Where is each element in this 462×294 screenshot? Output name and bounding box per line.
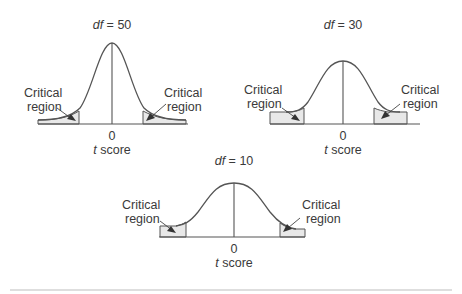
panel-title: df = 50 — [93, 18, 132, 32]
panel-df-10: df = 10 Criticalregion Criticalregion 0 … — [122, 154, 341, 270]
left-region-label: Criticalregion — [244, 83, 282, 111]
panel-title: df = 10 — [215, 154, 254, 168]
panel-df-50: df = 50 Criticalregion Criticalregion 0 … — [24, 18, 202, 157]
t-distribution-figure: df = 50 Criticalregion Criticalregion 0 … — [0, 0, 462, 294]
right-region-label: Criticalregion — [302, 198, 341, 226]
axis-label: t score — [93, 143, 131, 157]
right-arrow — [151, 104, 166, 117]
right-region-label: Criticalregion — [401, 83, 439, 111]
center-tick-label: 0 — [231, 242, 238, 256]
distribution-curve — [176, 183, 296, 229]
left-region-label: Criticalregion — [122, 198, 160, 226]
axis-label: t score — [324, 143, 362, 157]
right-region-label: Criticalregion — [164, 86, 202, 114]
panel-title: df = 30 — [324, 18, 363, 32]
panel-df-30: df = 30 Criticalregion Criticalregion 0 … — [244, 18, 439, 157]
axis-label: t score — [215, 256, 253, 270]
right-arrow — [288, 218, 300, 228]
center-tick-label: 0 — [340, 129, 347, 143]
center-tick-label: 0 — [109, 129, 116, 143]
left-region-label: Criticalregion — [24, 86, 62, 114]
